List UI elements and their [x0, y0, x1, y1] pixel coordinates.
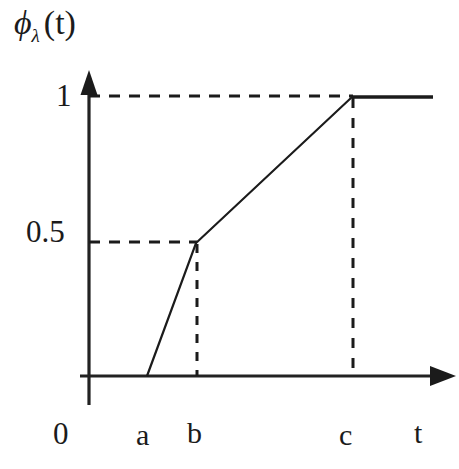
x-tick-label-b: b — [187, 418, 202, 448]
x-tick-label-a: a — [136, 420, 149, 450]
x-tick-label-zero: 0 — [53, 418, 69, 449]
plot-canvas — [0, 0, 459, 469]
figure-container: ϕλ(t) 1 0.5 0 a b c t — [0, 0, 459, 469]
function-curve-phi-lambda — [147, 97, 433, 376]
x-axis-variable-label: t — [414, 418, 422, 448]
y-tick-label-one: 1 — [56, 80, 72, 111]
phi-symbol: ϕ — [14, 4, 32, 41]
function-argument: (t) — [44, 4, 76, 41]
lambda-subscript: λ — [32, 25, 40, 46]
x-tick-label-c: c — [339, 420, 352, 450]
arrow-right-icon — [430, 366, 456, 386]
function-label: ϕλ(t) — [14, 6, 76, 45]
arrow-up-icon — [81, 70, 98, 95]
y-tick-label-half: 0.5 — [26, 216, 65, 247]
